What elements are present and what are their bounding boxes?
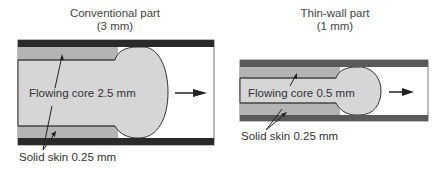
left-core-label: Flowing core 2.5 mm xyxy=(29,87,136,100)
right-top-mold-wall xyxy=(240,60,428,67)
left-top-mold-wall xyxy=(18,40,214,47)
diagram-canvas xyxy=(0,0,444,172)
left-top-skin xyxy=(18,47,118,60)
left-skin-label: Solid skin 0.25 mm xyxy=(19,151,116,164)
right-skin-label: Solid skin 0.25 mm xyxy=(241,130,338,143)
left-bottom-skin xyxy=(18,126,118,138)
right-bottom-mold-wall xyxy=(240,115,428,121)
right-core-label: Flowing core 0.5 mm xyxy=(248,87,355,100)
right-top-skin xyxy=(240,67,340,78)
right-bottom-skin xyxy=(240,103,340,115)
